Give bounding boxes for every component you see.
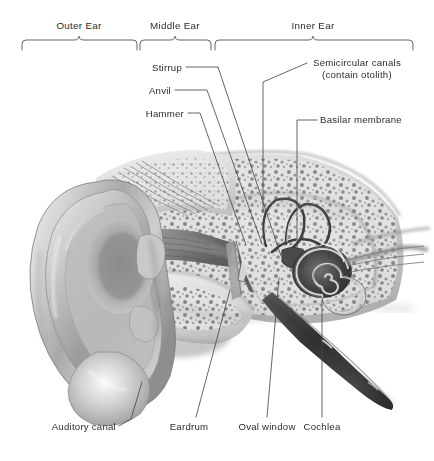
section-label-middle-ear: Middle Ear: [125, 20, 225, 32]
bracket-middle-ear: [140, 36, 211, 50]
section-brackets: [22, 36, 413, 50]
callout-label-basilar-membrane: Basilar membrane: [320, 114, 402, 126]
section-label-inner-ear: Inner Ear: [253, 20, 373, 32]
callout-label-cochlea: Cochlea: [292, 421, 352, 433]
callout-label-auditory-canal: Auditory canal: [10, 421, 116, 433]
semicircular-canals-line-1: Semicircular canals: [313, 57, 401, 69]
callout-label-hammer: Hammer: [70, 108, 184, 120]
bracket-outer-ear: [22, 36, 137, 50]
callout-label-stirrup: Stirrup: [70, 62, 182, 74]
ear-anatomy-figure: Outer Ear Middle Ear Inner Ear Stirrup A…: [0, 0, 434, 461]
bracket-inner-ear: [215, 36, 413, 50]
semicircular-canals-line-2: (contain otolith): [313, 69, 401, 81]
callout-label-anvil: Anvil: [70, 85, 171, 97]
callout-label-eardrum: Eardrum: [159, 421, 219, 433]
callout-label-semicircular-canals: Semicircular canals (contain otolith): [313, 57, 401, 80]
